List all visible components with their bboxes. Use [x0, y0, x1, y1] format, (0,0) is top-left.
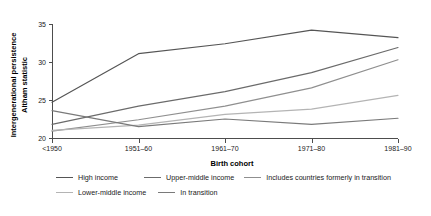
legend-row-2: Lower-middle income In transition: [56, 185, 423, 200]
legend-item-formerly-in-transition[interactable]: Includes countries formerly in transitio…: [244, 174, 391, 181]
legend-label-in-transition: In transition: [180, 189, 217, 196]
series-group: [52, 30, 398, 131]
legend: High income Upper-middle income Includes…: [0, 170, 431, 216]
legend-label-high-income: High income: [78, 174, 118, 181]
x-tick-label: <1950: [42, 145, 62, 152]
series-line-upper-middle-income: [52, 48, 398, 125]
x-axis-title: Birth cohort: [211, 159, 254, 168]
y-tick-label: 30: [38, 59, 46, 66]
x-tick-label: 1981–90: [384, 145, 411, 152]
legend-item-lower-middle-income[interactable]: Lower-middle income: [56, 189, 146, 196]
y-tick-label: 35: [38, 21, 46, 28]
legend-item-in-transition[interactable]: In transition: [158, 189, 217, 196]
legend-swatch-in-transition: [158, 192, 175, 193]
legend-swatch-high-income: [56, 177, 73, 178]
legend-label-upper-middle-income: Upper-middle income: [166, 174, 234, 181]
y-axis: 20253035: [38, 21, 52, 142]
chart-figure: Intergenerational persistence Altham sta…: [0, 0, 431, 216]
legend-label-formerly-in-transition: Includes countries formerly in transitio…: [266, 174, 391, 181]
x-axis: <19501951–601961–701971–801981–90: [42, 139, 412, 153]
y-tick-label: 20: [38, 135, 46, 142]
y-tick-label: 25: [38, 97, 46, 104]
legend-row-1: High income Upper-middle income Includes…: [56, 170, 423, 185]
line-chart-svg: Intergenerational persistence Altham sta…: [0, 0, 431, 172]
legend-swatch-lower-middle-income: [56, 192, 73, 193]
y-axis-title-line2: Altham statistic: [20, 57, 29, 113]
legend-label-lower-middle-income: Lower-middle income: [78, 189, 146, 196]
legend-swatch-upper-middle-income: [144, 177, 161, 178]
legend-item-high-income[interactable]: High income: [56, 174, 118, 181]
y-axis-label-group: Intergenerational persistence Altham sta…: [9, 33, 29, 138]
x-tick-label: 1971–80: [298, 145, 325, 152]
y-axis-title-line1: Intergenerational persistence: [9, 33, 18, 138]
x-tick-label: 1951–60: [125, 145, 152, 152]
legend-item-upper-middle-income[interactable]: Upper-middle income: [144, 174, 234, 181]
legend-swatch-formerly-in-transition: [244, 177, 261, 178]
plot-area: Intergenerational persistence Altham sta…: [0, 0, 431, 172]
x-tick-label: 1961–70: [211, 145, 238, 152]
